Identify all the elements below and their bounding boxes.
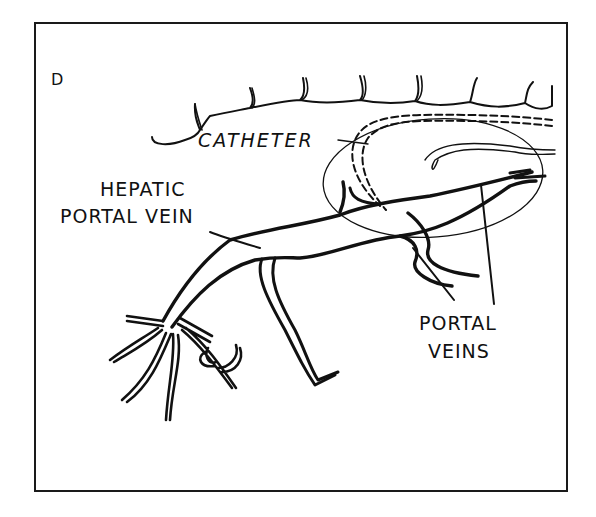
portal-veins-label-line1: PORTAL xyxy=(419,314,497,333)
portal-veins xyxy=(408,213,478,276)
vessel-drawing xyxy=(0,0,596,517)
portal-veins-label-line2: VEINS xyxy=(428,342,490,361)
mesenteric-tributaries xyxy=(110,316,241,420)
hepatic-portal-vein-label-line2: PORTAL VEIN xyxy=(60,207,194,226)
anatomical-diagram: D CATHETER HEPATIC PORTAL VEIN PORTAL VE… xyxy=(0,0,596,517)
catheter-label: CATHETER xyxy=(198,131,314,150)
hepatic-portal-vein-label-line1: HEPATIC xyxy=(100,180,186,199)
panel-label: D xyxy=(51,72,64,88)
